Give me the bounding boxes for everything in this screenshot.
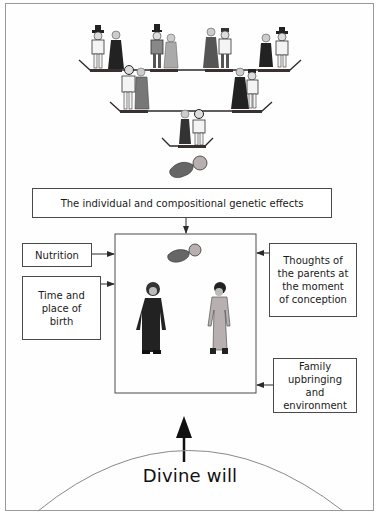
nutrition-label: Nutrition — [35, 249, 79, 262]
couple-icon — [92, 25, 124, 69]
genetic-effects-label: The individual and compositional genetic… — [61, 197, 304, 210]
family-label: Family upbringing and environment — [278, 360, 352, 412]
genetic-effects-box: The individual and compositional genetic… — [32, 188, 332, 218]
female-figure-icon — [208, 282, 230, 354]
time-place-label: Time and place of birth — [33, 289, 90, 328]
time-place-box: Time and place of birth — [22, 276, 101, 340]
center-fetus-icon — [168, 244, 201, 262]
ancestor-figures — [92, 24, 288, 145]
couple-icon — [203, 28, 231, 68]
divine-will-label: Divine will — [120, 465, 260, 486]
couple-icon — [122, 66, 149, 110]
thoughts-label: Thoughts of the parents at the moment of… — [276, 254, 350, 306]
nutrition-box: Nutrition — [22, 243, 92, 267]
divine-arrow-icon — [176, 416, 192, 462]
fetus-icon — [170, 156, 207, 178]
couple-icon — [259, 27, 288, 67]
thoughts-box: Thoughts of the parents at the moment of… — [269, 243, 357, 317]
couple-icon — [151, 24, 178, 68]
couple-icon — [231, 68, 258, 109]
family-box: Family upbringing and environment — [273, 358, 357, 413]
male-figure-icon — [136, 282, 166, 354]
connectors — [92, 218, 273, 385]
couple-icon — [179, 110, 205, 146]
